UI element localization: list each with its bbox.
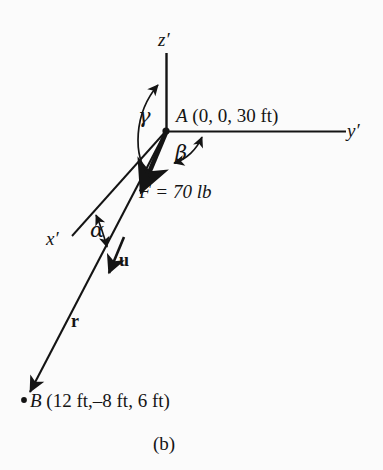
axis-label-z: z′ xyxy=(158,30,170,49)
point-label-a: A (0, 0, 30 ft) xyxy=(176,106,278,125)
axis-label-x: x′ xyxy=(46,229,59,248)
force-label: F = 70 lb xyxy=(139,182,211,201)
point-b-coordinates: (12 ft,–8 ft, 6 ft) xyxy=(46,390,169,411)
point-marker-a xyxy=(162,127,169,134)
axis-label-y: y′ xyxy=(347,121,360,140)
point-b-name: B xyxy=(30,390,42,411)
angle-label-gamma: γ xyxy=(138,106,151,127)
point-a-coordinates: (0, 0, 30 ft) xyxy=(192,105,278,126)
angle-label-beta: β xyxy=(175,143,187,164)
unit-vector-label: u xyxy=(119,251,129,269)
position-vector-label: r xyxy=(71,312,79,330)
force-vector-figure: z′ y′ x′ γ β α A (0, 0, 30 ft) F = 70 lb… xyxy=(0,0,383,470)
point-marker-b xyxy=(21,397,27,403)
angle-label-alpha: α xyxy=(90,220,104,241)
point-label-b: B (12 ft,–8 ft, 6 ft) xyxy=(30,391,170,410)
figure-caption: (b) xyxy=(153,434,175,453)
point-a-name: A xyxy=(176,105,188,126)
